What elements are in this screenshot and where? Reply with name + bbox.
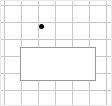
grid-line-horizontal <box>0 90 112 91</box>
grid-line-horizontal <box>0 39 112 40</box>
grid-line-horizontal <box>0 5 112 6</box>
grid-line-horizontal <box>0 22 112 23</box>
canvas-root[interactable] <box>0 0 112 106</box>
selection-rectangle[interactable] <box>20 47 96 81</box>
